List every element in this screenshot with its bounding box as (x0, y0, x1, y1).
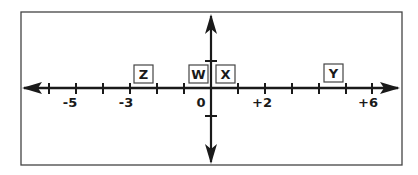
tick-label-minus-3: -3 (119, 95, 133, 110)
point-label-y: Y (328, 66, 339, 81)
point-z: Z (134, 65, 153, 83)
point-label-w: W (191, 67, 205, 82)
point-label-x: X (220, 67, 230, 82)
point-label-z: Z (139, 67, 148, 82)
point-x: X (216, 65, 235, 83)
number-line-diagram: -5 -3 0 +2 +6 Z W X Y (0, 0, 418, 175)
tick-label-plus-2: +2 (252, 95, 272, 110)
tick-label-minus-5: -5 (63, 95, 77, 110)
point-w: W (189, 65, 208, 83)
tick-label-0: 0 (196, 95, 205, 110)
tick-label-plus-6: +6 (358, 95, 378, 110)
point-y: Y (324, 64, 343, 82)
